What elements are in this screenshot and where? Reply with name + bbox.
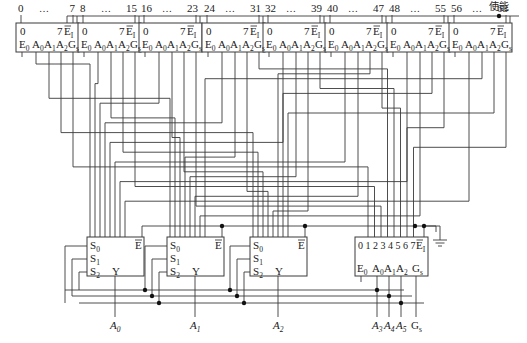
s2-wire xyxy=(79,272,87,290)
decoder-to-mux-wire xyxy=(111,52,175,237)
y-label: Y xyxy=(192,265,200,277)
e-bar-label: E xyxy=(215,239,222,251)
decoder-to-encoder-wire xyxy=(414,52,507,253)
range-end-label: 47 xyxy=(373,2,385,14)
output-first-label: 0 xyxy=(143,25,149,37)
output-first-label: 0 xyxy=(453,25,459,37)
decoder-to-mux-wire xyxy=(95,52,98,237)
s2-wire xyxy=(159,272,167,303)
decoder-to-mux-wire xyxy=(36,52,90,237)
decoder-to-mux-wire xyxy=(110,52,283,237)
junction-dot xyxy=(220,224,224,228)
junction-dot xyxy=(375,288,379,292)
output-label-a1: A1 xyxy=(189,319,200,334)
output-last-label: 7 xyxy=(366,25,372,37)
range-end-label: 39 xyxy=(311,2,323,14)
decoder-to-mux-wire xyxy=(288,52,494,237)
decoder-to-mux-wire xyxy=(195,52,358,237)
decoder-to-mux-wire xyxy=(278,52,370,237)
range-end-label: 55 xyxy=(435,2,447,14)
circuit-diagram: 使能0…707EIE0A0A1A2Gs8…1507EIE0A0A1A2Gs16…… xyxy=(0,0,527,343)
decoder-to-encoder-wire xyxy=(407,52,444,253)
output-label-a0: A0 xyxy=(109,319,121,334)
range-end-label: 63 xyxy=(497,2,509,14)
s1-wire xyxy=(237,259,250,296)
range-ellipsis: … xyxy=(410,3,420,14)
junction-dot xyxy=(422,224,426,228)
range-start-label: 56 xyxy=(451,2,463,14)
junction-dot xyxy=(228,288,232,292)
s0-wire xyxy=(145,246,167,290)
output-first-label: 0 xyxy=(206,25,212,37)
encoder-output-label-gs: Gs xyxy=(411,319,422,334)
range-end-label: 23 xyxy=(187,2,199,14)
output-last-label: 7 xyxy=(490,25,496,37)
range-start-label: 40 xyxy=(327,2,339,14)
decoder-to-mux-wire xyxy=(172,52,180,237)
encoder-output-label-a3: A3 xyxy=(371,319,383,334)
junction-dot xyxy=(143,288,147,292)
output-first-label: 0 xyxy=(391,25,397,37)
decoder-to-mux-wire xyxy=(247,52,268,237)
decoder-to-mux-wire xyxy=(190,52,296,237)
range-ellipsis: … xyxy=(162,3,172,14)
junction-dot xyxy=(235,294,239,298)
range-end-label: 15 xyxy=(126,2,138,14)
junction-dot xyxy=(399,301,403,305)
decoder-to-mux-wire xyxy=(123,52,258,237)
range-ellipsis: … xyxy=(286,3,296,14)
s1-wire xyxy=(72,259,87,296)
s2-wire xyxy=(244,272,250,303)
encoder-inputs-label: 0 1 2 3 4 5 6 7 xyxy=(358,240,416,251)
decoder-to-encoder-wire xyxy=(320,52,394,253)
range-end-label: 31 xyxy=(250,2,261,14)
output-first-label: 0 xyxy=(82,25,88,37)
decoder-to-mux-wire xyxy=(125,52,469,237)
range-start-label: 24 xyxy=(204,2,216,14)
range-start-label: 32 xyxy=(265,2,276,14)
e-bar-label: E xyxy=(298,239,305,251)
junction-dot xyxy=(157,301,161,305)
decoder-to-mux-wire xyxy=(100,52,159,237)
junction-dot xyxy=(150,294,154,298)
decoder-to-mux-wire xyxy=(49,52,170,237)
output-last-label: 7 xyxy=(243,25,249,37)
range-end-label: 7 xyxy=(70,2,76,14)
e-bar-label: E xyxy=(135,239,142,251)
decoder-to-mux-wire xyxy=(200,52,420,237)
s0-wire xyxy=(230,246,250,290)
output-label-a2: A2 xyxy=(272,319,284,334)
range-ellipsis: … xyxy=(225,3,235,14)
s1-wire xyxy=(152,259,167,296)
output-last-label: 7 xyxy=(428,25,434,37)
decoder-to-mux-wire xyxy=(115,52,345,237)
range-ellipsis: … xyxy=(472,3,482,14)
output-last-label: 7 xyxy=(57,25,63,37)
decoder-to-mux-wire xyxy=(185,52,235,237)
junction-dot xyxy=(497,14,501,18)
decoder-to-mux-wire xyxy=(120,52,407,237)
y-label: Y xyxy=(275,265,283,277)
junction-dot xyxy=(242,301,246,305)
junction-dot xyxy=(413,224,417,228)
mux-enable-bus xyxy=(142,226,436,237)
range-start-label: 48 xyxy=(389,2,401,14)
range-ellipsis: … xyxy=(101,3,111,14)
range-start-label: 0 xyxy=(18,2,24,14)
output-last-label: 7 xyxy=(119,25,125,37)
decoder-to-mux-wire xyxy=(283,52,432,237)
output-last-label: 7 xyxy=(304,25,310,37)
output-last-label: 7 xyxy=(180,25,186,37)
output-first-label: 0 xyxy=(20,25,26,37)
range-start-label: 8 xyxy=(80,2,86,14)
output-first-label: 0 xyxy=(267,25,273,37)
output-first-label: 0 xyxy=(329,25,335,37)
range-start-label: 16 xyxy=(141,2,153,14)
junction-dot xyxy=(387,294,391,298)
range-ellipsis: … xyxy=(39,3,49,14)
encoder-output-label-a4: A4 xyxy=(383,319,395,334)
decoder-to-encoder-wire xyxy=(382,52,401,253)
encoder-output-label-a5: A5 xyxy=(395,319,407,334)
junction-dot xyxy=(303,224,307,228)
range-ellipsis: … xyxy=(348,3,358,14)
